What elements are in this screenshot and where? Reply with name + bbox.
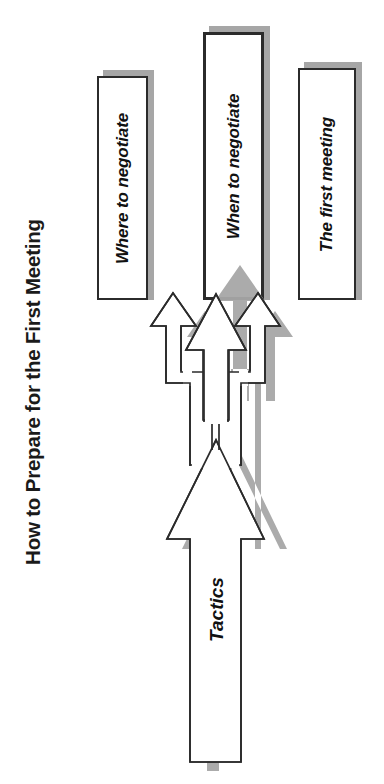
split-arrow-shadow: [182, 265, 293, 771]
branch-box-when-face[interactable]: When to negotiate: [203, 32, 264, 300]
branch-box-where-face[interactable]: Where to negotiate: [97, 76, 148, 300]
page-title: How to Prepare for the First Meeting: [0, 0, 66, 784]
split-arrow-body: [151, 293, 280, 762]
slide-canvas: How to Prepare for the First Meeting Whe…: [0, 0, 384, 784]
source-arrow-label: Tactics: [207, 572, 226, 648]
branch-box-first-meeting-label: The first meeting: [319, 116, 336, 251]
split-arrow-outline: [151, 293, 280, 762]
branch-box-when-label: When to negotiate: [225, 93, 242, 239]
branch-box-first-meeting-face[interactable]: The first meeting: [298, 68, 356, 300]
branch-box-where-label: Where to negotiate: [114, 112, 131, 263]
page-title-text: How to Prepare for the First Meeting: [23, 219, 44, 565]
